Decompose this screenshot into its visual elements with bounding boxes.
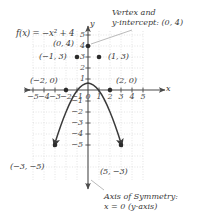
point-label-3-neg5: (5, −3) <box>100 167 127 175</box>
vertex-leader-line <box>91 30 132 44</box>
y-tick-5: 5 <box>71 31 85 39</box>
y-tick-neg2: −2 <box>69 108 83 116</box>
vertex-annotation-line1: Vertex and <box>112 8 183 18</box>
point-label-2-0: (2, 0) <box>116 76 137 84</box>
y-tick-neg5: −5 <box>69 141 83 149</box>
vertex-annotation-line2: y-intercept: (0, 4) <box>112 18 183 28</box>
y-axis-label: y <box>90 20 94 28</box>
point-label-neg1-3: (−1, 3) <box>39 52 66 60</box>
point-neg3-neg5 <box>53 143 58 148</box>
y-tick-4: 4 <box>71 42 85 50</box>
symmetry-leader-line <box>91 180 104 190</box>
symmetry-annotation: Axis of Symmetry: x = 0 (y-axis) <box>104 192 178 212</box>
y-tick-2: 2 <box>71 64 85 72</box>
y-tick-1: 1 <box>71 75 85 83</box>
point-1-3 <box>97 55 102 60</box>
vertex-annotation: Vertex and y-intercept: (0, 4) <box>112 8 183 28</box>
x-axis-label: x <box>166 85 170 93</box>
equation-label: f(x) = −x² + 4 <box>16 29 74 38</box>
point-0-4 <box>86 44 91 49</box>
point-label-neg2-0: (−2, 0) <box>30 76 57 84</box>
y-tick-neg1: −1 <box>69 97 83 105</box>
point-label-1-3: (1, 3) <box>108 52 129 60</box>
y-tick-neg4: −4 <box>69 130 83 138</box>
symmetry-annotation-line1: Axis of Symmetry: <box>104 192 178 202</box>
x-tick-5: 5 <box>136 93 150 101</box>
symmetry-annotation-line2: x = 0 (y-axis) <box>104 202 178 212</box>
point-3-neg5 <box>119 143 124 148</box>
point-label-neg3-neg5: (−3, −5) <box>10 162 44 170</box>
y-tick-3: 3 <box>71 53 85 61</box>
y-tick-neg3: −3 <box>69 119 83 127</box>
graph-figure: f(x) = −x² + 4 x y (−3, −5) (−2, 0) (−1,… <box>0 0 197 220</box>
